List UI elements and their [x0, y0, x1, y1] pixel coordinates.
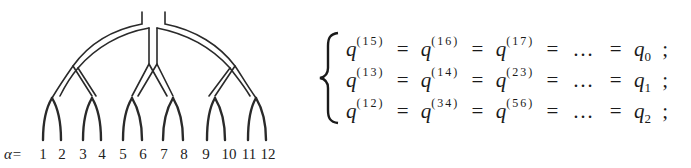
leaf-label: 10 [222, 146, 237, 163]
left-brace-icon [318, 30, 342, 126]
leaf-label: 4 [98, 146, 106, 163]
leaf-labels: 1 2 3 4 5 6 7 8 9 10 11 12 [0, 146, 300, 166]
leaf-label: 11 [242, 146, 256, 163]
leaf-branches [43, 98, 266, 140]
ultrametric-tree-diagram [0, 0, 300, 146]
leaf-label: 1 [39, 146, 47, 163]
leaf-label: 2 [58, 146, 66, 163]
root-stem [52, 12, 256, 98]
leaf-label: 8 [180, 146, 188, 163]
equation-row-q1: q(13) = q(14) = q(23) = … = q1 ; [346, 61, 668, 89]
leaf-label: 3 [79, 146, 87, 163]
leaf-label: 12 [261, 146, 276, 163]
leaf-label: 5 [119, 146, 127, 163]
leaf-label: 7 [160, 146, 168, 163]
leaf-label: 6 [139, 146, 147, 163]
leaf-label: 9 [202, 146, 210, 163]
overlap-equations: q(15) = q(16) = q(17) = … = q0 ; q(13) =… [318, 30, 688, 126]
equation-row-q2: q(12) = q(34) = q(56) = … = q2 ; [346, 92, 668, 120]
equation-row-q0: q(15) = q(16) = q(17) = … = q0 ; [346, 30, 668, 58]
